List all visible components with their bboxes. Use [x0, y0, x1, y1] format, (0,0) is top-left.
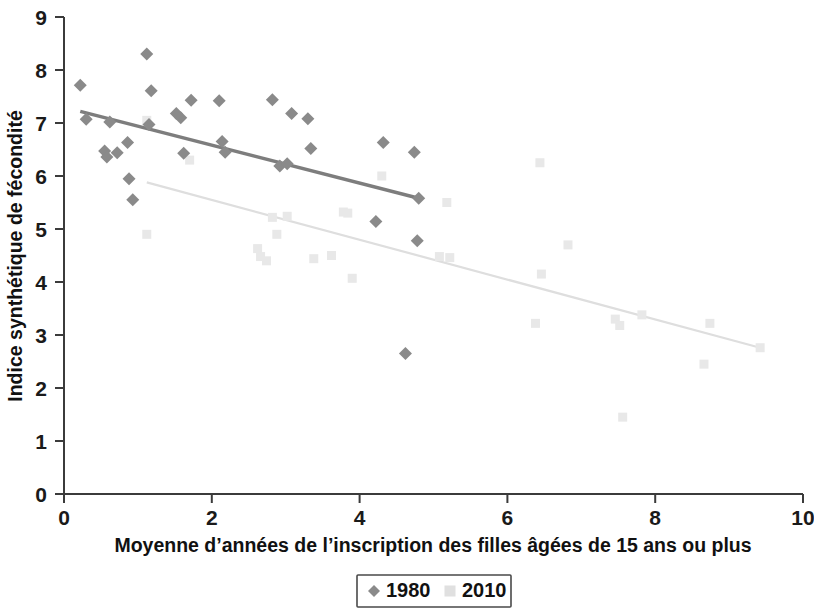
data-point-2010: [615, 321, 624, 330]
data-point-2010: [262, 256, 271, 265]
x-tick-label: 2: [206, 506, 218, 529]
data-point-1980: [121, 136, 134, 149]
data-point-1980: [285, 107, 298, 120]
data-point-2010: [435, 252, 444, 261]
data-point-2010: [343, 209, 352, 218]
data-point-1980: [377, 136, 390, 149]
data-point-2010: [699, 360, 708, 369]
data-points-2010: [142, 116, 764, 422]
data-point-1980: [123, 172, 136, 185]
data-point-1980: [266, 93, 279, 106]
data-point-1980: [304, 142, 317, 155]
trendline-1980-stroke: [80, 111, 418, 198]
y-tick-label: 8: [35, 59, 47, 82]
data-point-2010: [348, 274, 357, 283]
x-tick-label: 10: [791, 506, 814, 529]
x-axis-title: Moyenne d’années de l’inscription des fi…: [114, 534, 751, 556]
y-tick-label: 4: [35, 271, 47, 294]
data-point-2010: [618, 413, 627, 422]
data-point-1980: [411, 234, 424, 247]
chart-figure: 0123456789 0246810 Moyenne d’années de l…: [0, 0, 814, 609]
trendline-2010-stroke: [147, 182, 760, 347]
y-axis-title: Indice synthétique de fécondité: [4, 110, 26, 402]
data-point-1980: [301, 112, 314, 125]
data-point-2010: [535, 158, 544, 167]
legend-label-2010: 2010: [462, 579, 507, 601]
data-point-2010: [377, 172, 386, 181]
data-point-1980: [213, 94, 226, 107]
scatter-plot: 0123456789 0246810 Moyenne d’années de l…: [0, 0, 814, 609]
data-point-2010: [253, 244, 262, 253]
data-point-2010: [309, 254, 318, 263]
data-point-2010: [272, 230, 281, 239]
data-point-2010: [142, 230, 151, 239]
y-axis-ticks: 0123456789: [35, 6, 64, 506]
data-point-2010: [283, 212, 292, 221]
y-tick-label: 7: [35, 112, 47, 135]
data-point-1980: [408, 146, 421, 159]
data-point-2010: [531, 319, 540, 328]
data-point-2010: [445, 253, 454, 262]
data-point-1980: [185, 94, 198, 107]
y-tick-label: 3: [35, 324, 47, 347]
data-point-2010: [268, 213, 277, 222]
data-point-2010: [442, 198, 451, 207]
data-point-2010: [537, 270, 546, 279]
x-axis-ticks: 0246810: [58, 494, 814, 529]
x-tick-label: 6: [502, 506, 514, 529]
y-tick-label: 6: [35, 165, 47, 188]
x-tick-label: 8: [649, 506, 661, 529]
data-point-1980: [140, 48, 153, 61]
data-point-1980: [74, 79, 87, 92]
chart-axes: [64, 17, 803, 494]
data-point-1980: [126, 193, 139, 206]
y-tick-label: 2: [35, 377, 47, 400]
data-points-1980: [74, 48, 425, 360]
data-point-2010: [327, 251, 336, 260]
data-point-2010: [756, 343, 765, 352]
trendline-1980: [80, 111, 418, 198]
data-point-1980: [145, 84, 158, 97]
legend-label-1980: 1980: [386, 579, 431, 601]
x-tick-label: 4: [354, 506, 366, 529]
y-tick-label: 1: [35, 430, 47, 453]
data-point-2010: [563, 240, 572, 249]
legend-marker-2010: [445, 586, 456, 597]
chart-legend: 19802010: [357, 575, 511, 607]
y-tick-label: 5: [35, 218, 47, 241]
y-tick-label: 9: [35, 6, 47, 29]
data-point-1980: [412, 192, 425, 205]
data-point-2010: [185, 156, 194, 165]
x-tick-label: 0: [58, 506, 70, 529]
y-tick-label: 0: [35, 483, 47, 506]
data-point-1980: [399, 347, 412, 360]
data-point-2010: [705, 319, 714, 328]
trendline-2010: [147, 182, 760, 347]
data-point-2010: [637, 310, 646, 319]
data-point-1980: [369, 215, 382, 228]
